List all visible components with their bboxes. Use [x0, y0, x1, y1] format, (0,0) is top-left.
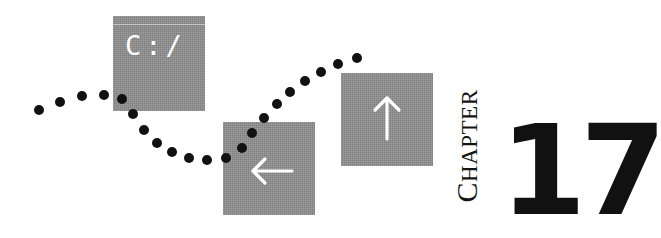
arrow-up-icon: [341, 73, 433, 166]
chapter-label: CHAPTER: [452, 90, 482, 203]
c-drive-tile: C:/: [113, 16, 205, 111]
c-drive-label: C:/: [125, 32, 186, 59]
path-dot: [184, 153, 194, 163]
path-dot: [77, 91, 87, 101]
path-dot: [352, 53, 362, 63]
chapter-label-rest: HAPTER: [457, 90, 482, 182]
path-dot: [333, 59, 343, 69]
tile-divider: [113, 24, 205, 25]
path-dot: [55, 97, 65, 107]
chapter-label-initial: C: [450, 182, 483, 203]
path-dot: [202, 155, 212, 165]
path-dot: [167, 147, 177, 157]
left-arrow-tile: [223, 122, 315, 215]
path-dot: [300, 76, 310, 86]
path-dot: [152, 138, 162, 148]
arrow-left-icon: [223, 122, 315, 215]
path-dot: [34, 105, 44, 115]
path-dot: [272, 99, 282, 109]
path-dot: [316, 67, 326, 77]
chapter-number: 17: [500, 109, 661, 233]
path-dot: [99, 90, 109, 100]
path-dot: [285, 87, 295, 97]
up-arrow-tile: [341, 73, 433, 166]
path-dot: [139, 125, 149, 135]
